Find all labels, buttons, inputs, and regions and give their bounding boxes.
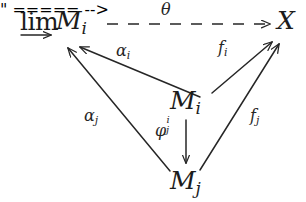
arrow-label-alpha-j-subscript: j	[95, 114, 98, 127]
node-center-base: M	[170, 86, 196, 115]
node-center-object: Mi	[170, 88, 201, 117]
colimit-operator-label: lim	[20, 9, 58, 34]
arrow-label-alpha-i-base: α	[116, 41, 127, 60]
arrow-label-theta-text: θ	[161, 0, 171, 19]
arrow-label-alpha-i-subscript: i	[127, 49, 130, 62]
node-colimit-object: Mi	[56, 8, 87, 37]
node-bottom-base: M	[170, 166, 196, 195]
node-colimit-base: M	[56, 6, 82, 35]
arrow-label-alpha-i: αi	[116, 43, 130, 62]
arrow-label-alpha-j-base: α	[84, 106, 95, 125]
node-codomain: X	[277, 8, 295, 33]
arrow-label-f-i-subscript: i	[224, 46, 227, 59]
node-bottom-object: Mj	[170, 168, 201, 197]
arrow-label-phi-indices: ij	[166, 120, 173, 136]
arrow-label-phi-base: φ	[155, 121, 166, 140]
arrow-f-j	[200, 44, 279, 170]
arrow-label-theta: θ	[161, 2, 171, 18]
colimit-operator: lim	[20, 9, 58, 34]
arrow-label-phi-subscript: j	[166, 125, 169, 135]
commutative-diagram: " ===== --> lim Mi X Mi Mj θ αi fi αj fj…	[0, 0, 306, 202]
node-colimit-subscript: i	[82, 18, 87, 38]
node-codomain-label: X	[277, 6, 295, 35]
node-center-subscript: i	[196, 98, 201, 118]
arrow-label-f-i: fi	[218, 40, 227, 59]
arrow-label-f-j: fj	[250, 108, 259, 127]
arrow-label-alpha-j: αj	[84, 108, 98, 127]
arrow-label-phi-i-j: φij	[155, 120, 174, 139]
arrow-label-f-j-subscript: j	[256, 114, 259, 127]
node-bottom-subscript: j	[196, 178, 201, 198]
